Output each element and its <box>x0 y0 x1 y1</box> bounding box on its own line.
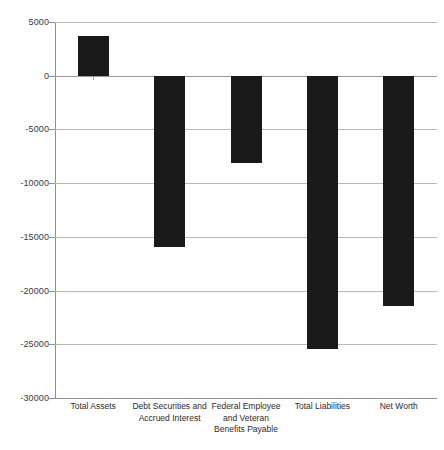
x-axis-category-label: Debt Securities andAccrued Interest <box>131 401 207 424</box>
y-axis-tick-label: -5000 <box>3 124 49 134</box>
bar[interactable] <box>231 76 262 163</box>
x-axis-label-line: Net Worth <box>361 401 437 413</box>
gridline <box>55 398 437 399</box>
x-axis-label-line: Debt Securities and <box>131 401 207 413</box>
x-axis-label-line: and Veteran <box>208 413 284 425</box>
y-axis-tick <box>49 398 55 399</box>
x-axis-label-line: Benefits Payable <box>208 424 284 436</box>
y-axis-tick-label: -15000 <box>3 232 49 242</box>
y-axis-tick-label: -30000 <box>3 393 49 403</box>
y-axis-tick-label: -25000 <box>3 339 49 349</box>
bar[interactable] <box>307 76 338 349</box>
y-axis-tick-label: -20000 <box>3 286 49 296</box>
x-axis-category-label: Net Worth <box>361 401 437 413</box>
plot-area <box>55 22 437 398</box>
y-axis-tick-label: 5000 <box>3 17 49 27</box>
x-axis-category-label: Total Assets <box>55 401 131 413</box>
x-axis-tick <box>93 76 94 80</box>
bar[interactable] <box>154 76 185 247</box>
x-axis-category-label: Federal Employeeand VeteranBenefits Paya… <box>208 401 284 436</box>
bar[interactable] <box>78 36 109 76</box>
bar[interactable] <box>383 76 414 306</box>
y-axis-tick-label: 0 <box>3 71 49 81</box>
x-axis-label-line: Accrued Interest <box>131 413 207 425</box>
y-axis-labels: 50000-5000-10000-15000-20000-25000-30000 <box>0 0 49 450</box>
x-axis-label-line: Total Liabilities <box>284 401 360 413</box>
x-axis-label-line: Federal Employee <box>208 401 284 413</box>
bar-chart: 50000-5000-10000-15000-20000-25000-30000… <box>0 0 444 450</box>
x-axis-label-line: Total Assets <box>55 401 131 413</box>
y-axis-tick-label: -10000 <box>3 178 49 188</box>
x-axis-category-label: Total Liabilities <box>284 401 360 413</box>
x-axis-labels: Total AssetsDebt Securities andAccrued I… <box>55 401 437 449</box>
